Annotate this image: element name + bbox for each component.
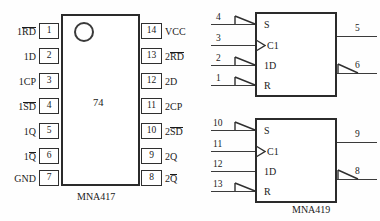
circle-notch-icon (74, 22, 94, 42)
dip-package-caption: MNA417 (77, 192, 115, 202)
dip-pin-label-4: 1SD (0, 102, 36, 112)
pin-label-text: 2CP (165, 101, 182, 112)
input-line-3 (211, 45, 255, 46)
pin-number-8: 8 (355, 167, 360, 177)
port-label-r: R (264, 187, 271, 197)
pin-label-text: VCC (165, 26, 186, 37)
dynamic-input-wedge-icon (255, 145, 266, 158)
dip-body-marking: 74 (93, 98, 104, 109)
pin-label-overbar: Q (29, 152, 36, 162)
dip-pin-box-9: 9 (141, 148, 162, 164)
dip-pin-box-3: 3 (39, 73, 59, 89)
dip-pin-label-9: 2Q (165, 152, 177, 162)
input-line-11 (211, 151, 255, 152)
pin-label-text: 1CP (19, 76, 36, 87)
pin-number-2: 2 (216, 54, 221, 64)
dip-pin-box-13: 13 (141, 48, 162, 64)
dip-pin-box-14: 14 (141, 23, 162, 39)
dip-pin-number: 10 (147, 126, 157, 136)
dip-pin-number: 8 (149, 173, 154, 183)
dip-pin-number: 11 (147, 101, 156, 111)
output-line-5 (337, 36, 377, 37)
dip-pin-label-5: 1Q (0, 127, 36, 137)
pin-label-text: 1D (24, 51, 36, 62)
pin-number-11: 11 (213, 140, 222, 150)
dip-pin-label-7: GND (0, 174, 36, 184)
figure-canvas: 74 1 2 3 4 5 6 7 1RD 1D 1CP 1SD 1Q 1Q GN… (0, 0, 380, 221)
dip-pin-box-5: 5 (39, 123, 59, 139)
logic-symbols-caption: MNA419 (292, 205, 330, 215)
dip-pin-number: 9 (149, 151, 154, 161)
dip-pin-label-8: 2Q (165, 174, 177, 184)
dip-pin-box-2: 2 (39, 48, 59, 64)
dip-pin-number: 6 (47, 151, 52, 161)
pin-number-5: 5 (355, 24, 360, 34)
dip-pin-box-10: 10 (141, 123, 162, 139)
port-label-c1: C1 (267, 41, 279, 51)
dip-pin-number: 2 (47, 51, 52, 61)
dip-pin-number: 7 (47, 173, 52, 183)
pin-label-text: 2D (165, 76, 177, 87)
pin-number-13: 13 (213, 180, 223, 190)
pin-number-3: 3 (216, 34, 221, 44)
dip-pin-number: 1 (47, 26, 52, 36)
dip-pin-box-4: 4 (39, 98, 59, 114)
dip-pin-number: 13 (147, 51, 157, 61)
pin-label-overbar: RD (170, 52, 184, 62)
dip-pin-label-11: 2CP (165, 102, 182, 112)
dip-pin-number: 4 (47, 101, 52, 111)
dip-pin-label-6: 1Q (0, 152, 36, 162)
dip-pin-label-13: 2RD (165, 52, 184, 62)
dynamic-input-wedge-icon (255, 39, 266, 52)
dip-pin-label-10: 2SD (165, 127, 183, 137)
polarity-triangle-icon (234, 56, 256, 66)
input-line-12 (211, 171, 255, 172)
dip-pin-box-8: 8 (141, 170, 162, 186)
dip-pin-box-12: 12 (141, 73, 162, 89)
port-label-s: S (264, 126, 270, 136)
pin-number-1: 1 (216, 74, 221, 84)
polarity-triangle-icon (234, 121, 256, 131)
dip-pin-label-1: 1RD (0, 27, 36, 37)
pin-number-12: 12 (213, 160, 223, 170)
pin-label-overbar: SD (170, 127, 183, 137)
dip-pin-label-12: 2D (165, 77, 177, 87)
polarity-triangle-icon (234, 182, 256, 192)
port-label-s: S (264, 20, 270, 30)
dip-pin-number: 5 (47, 126, 52, 136)
pin-label-overbar: RD (22, 27, 36, 37)
port-label-1d: 1D (264, 167, 276, 177)
pin-label-text: GND (14, 173, 36, 184)
dip-pin-box-6: 6 (39, 148, 59, 164)
dip-pin-label-3: 1CP (0, 77, 36, 87)
pin-label-text: 2Q (165, 151, 177, 162)
dip-pin-box-1: 1 (39, 23, 59, 39)
dip-pin-number: 14 (147, 26, 157, 36)
dip-pin-number: 12 (147, 76, 157, 86)
dip-pin-box-11: 11 (141, 98, 162, 114)
pin-number-4: 4 (216, 13, 221, 23)
polarity-triangle-icon (234, 76, 256, 86)
dip-pin-box-7: 7 (39, 170, 59, 186)
polarity-triangle-icon (234, 15, 256, 25)
output-line-9 (337, 142, 377, 143)
dip-pin-label-14: VCC (165, 27, 186, 37)
port-label-r: R (264, 81, 271, 91)
pin-number-9: 9 (355, 130, 360, 140)
dip-pin-label-2: 1D (0, 52, 36, 62)
port-label-1d: 1D (264, 61, 276, 71)
dip-pin-number: 3 (47, 76, 52, 86)
pin-number-6: 6 (355, 61, 360, 71)
pin-label-text: 1Q (24, 126, 36, 137)
pin-number-10: 10 (213, 119, 223, 129)
pin-label-overbar: SD (23, 102, 36, 112)
pin-label-overbar: Q (170, 174, 177, 184)
port-label-c1: C1 (267, 147, 279, 157)
